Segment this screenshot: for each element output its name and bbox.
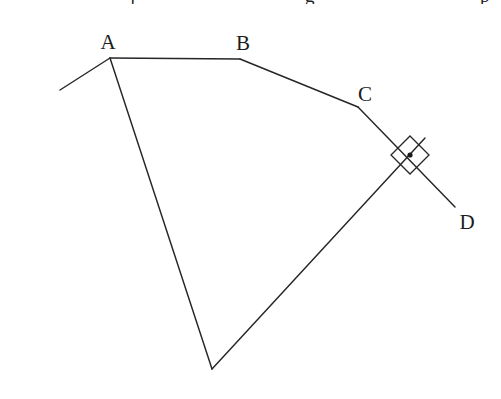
- figure-drawing: [0, 0, 501, 399]
- segment-A-to-E: [110, 58, 212, 369]
- vertex-label-c: C: [358, 84, 372, 105]
- vertex-label-d: D: [459, 212, 474, 233]
- segment-ray-left-to-A: [60, 58, 110, 90]
- right-angle-center-dot-icon: [407, 152, 412, 157]
- segment-A-to-B: [110, 58, 240, 59]
- vertex-label-a: A: [100, 32, 115, 53]
- segment-B-to-C: [240, 59, 358, 107]
- segment-E-to-upper-right: [212, 138, 425, 369]
- geometry-figure-canvas: j g p A B C D: [0, 0, 501, 399]
- vertex-label-b: B: [236, 33, 250, 54]
